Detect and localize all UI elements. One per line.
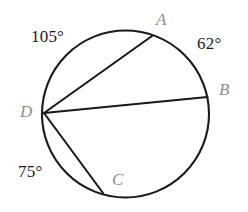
geometry-figure: A B C D 105° 62° 75° [0,0,248,212]
arc-measure-105: 105° [31,28,64,45]
point-label-b: B [219,81,229,98]
chord-DA [44,36,152,113]
arc-measure-75: 75° [18,163,42,180]
arc-measure-62: 62° [197,35,221,52]
chord-DB [44,97,208,113]
point-label-c: C [112,171,123,188]
point-label-d: D [20,103,32,120]
point-label-a: A [156,11,166,28]
